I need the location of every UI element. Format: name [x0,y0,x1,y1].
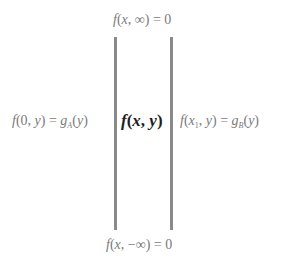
equals: = [149,12,164,27]
arg-neg-infinity: −∞ [128,237,146,252]
arg-zero: 0 [21,113,28,128]
interior-function: f(x, y) [121,112,163,130]
separator: , [128,12,135,27]
arg-y: y [149,111,157,130]
bottom-boundary-condition: f(x, −∞) = 0 [106,237,172,253]
separator: , [121,237,128,252]
value: 0 [165,237,172,252]
paren-close: ) [157,111,163,130]
right-boundary-condition: f(x1, y) = gB(y) [180,113,259,129]
value: 0 [164,12,171,27]
arg-x: x [132,111,141,130]
arg-infinity: ∞ [135,12,145,27]
equals: = [45,113,60,128]
paren-close: ) [83,113,88,128]
top-boundary-condition: f(x, ∞) = 0 [113,12,171,28]
equals: = [217,113,232,128]
separator: , [28,113,35,128]
left-boundary-condition: f(0, y) = gA(y) [12,113,88,129]
strip-diagram: f(x, ∞) = 0 f(0, y) = gA(y) f(x, y) f(x1… [0,0,282,264]
paren-close: ) [254,113,259,128]
left-boundary-line [114,37,117,230]
separator: , [199,113,206,128]
rhs-function: g [232,113,239,128]
equals: = [150,237,165,252]
right-boundary-line [170,37,173,230]
